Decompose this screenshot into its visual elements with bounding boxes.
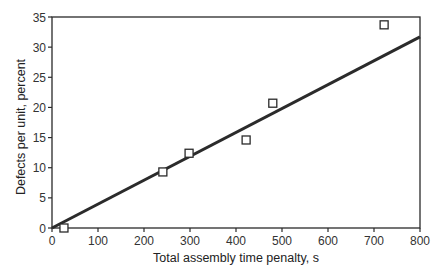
y-tick-label: 10 [33, 161, 47, 175]
y-tick-label: 0 [39, 222, 46, 236]
square-marker [380, 21, 388, 29]
x-tick-label: 600 [318, 234, 338, 248]
square-marker [269, 99, 277, 107]
square-marker [242, 136, 250, 144]
y-tick-label: 35 [33, 11, 47, 25]
y-tick-label: 20 [33, 101, 47, 115]
square-marker [159, 168, 167, 176]
square-marker [60, 224, 68, 232]
y-tick-label: 15 [33, 131, 47, 145]
x-tick-label: 400 [226, 234, 246, 248]
scatter-chart: 05101520253035 0100200300400500600700800… [0, 0, 446, 274]
data-markers [60, 21, 388, 232]
regression-line [52, 37, 420, 228]
x-tick-label: 500 [272, 234, 292, 248]
x-tick-label: 800 [410, 234, 430, 248]
y-tick-label: 25 [33, 71, 47, 85]
y-tick-label: 5 [39, 191, 46, 205]
x-axis-ticks: 0100200300400500600700800 [49, 228, 431, 248]
x-tick-label: 0 [49, 234, 56, 248]
x-tick-label: 100 [88, 234, 108, 248]
y-axis-label: Defects per unit, percent [14, 58, 28, 195]
fit-line-segment [52, 37, 420, 228]
y-tick-label: 30 [33, 41, 47, 55]
x-tick-label: 300 [180, 234, 200, 248]
square-marker [185, 149, 193, 157]
x-axis-label: Total assembly time penalty, s [153, 251, 319, 265]
x-tick-label: 200 [134, 234, 154, 248]
x-tick-label: 700 [364, 234, 384, 248]
y-axis-ticks: 05101520253035 [33, 11, 52, 236]
plot-border [52, 17, 420, 228]
plot-frame [52, 17, 420, 228]
